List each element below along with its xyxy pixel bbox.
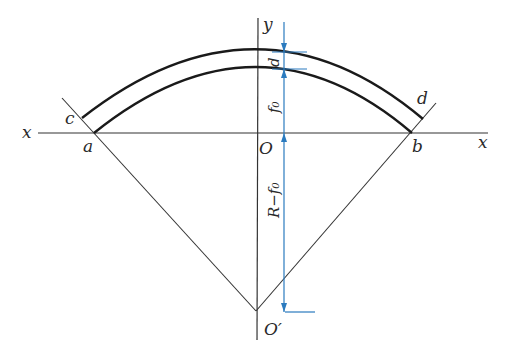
label-b: b [412,136,423,156]
arrow-down-O-prime-icon [281,303,287,312]
label-a: a [83,136,93,156]
label-y: y [262,14,273,34]
arrow-up-O-icon [281,133,287,142]
label-x-right: x [478,132,488,152]
label-rise-f0: f₀ [265,101,283,114]
label-O-prime: O′ [264,319,282,339]
inner-arc [94,67,412,133]
outer-arc [82,49,423,119]
label-thickness-d: d [265,57,283,67]
radial-line-right [256,103,436,311]
label-c: c [65,108,75,128]
label-x-left: x [22,122,32,142]
label-radius-minus-rise: R−f₀ [265,183,283,219]
label-d-point: d [417,88,428,108]
radial-line-left [62,98,256,311]
label-O: O [259,138,273,158]
arch-diagram: x x y c a b d O O′ d f₀ R−f₀ [0,0,507,359]
